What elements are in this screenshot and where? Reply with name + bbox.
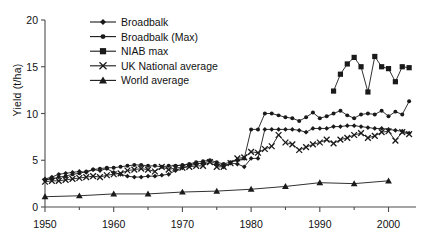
series-world-average — [42, 177, 392, 199]
axes: 05101520195019601970198019902000 — [26, 14, 416, 230]
data-point — [262, 146, 268, 152]
data-point — [304, 115, 308, 119]
y-tick-label: 0 — [32, 201, 38, 213]
data-point — [146, 164, 150, 168]
data-point — [283, 140, 289, 146]
data-point — [132, 175, 137, 180]
data-point — [70, 172, 74, 176]
x-tick-label: 1990 — [308, 218, 332, 230]
data-point — [159, 173, 164, 178]
data-point — [100, 19, 106, 25]
data-point — [345, 123, 350, 128]
data-point — [256, 127, 260, 131]
data-point — [269, 127, 274, 132]
data-point — [331, 141, 337, 147]
data-point — [269, 143, 275, 149]
data-point — [352, 116, 356, 120]
data-point — [249, 127, 253, 131]
data-point — [84, 169, 88, 173]
data-point — [296, 147, 302, 153]
data-point — [235, 162, 240, 167]
data-point — [338, 124, 343, 129]
data-point — [276, 132, 282, 138]
series-broadbalk — [43, 123, 412, 181]
data-point — [311, 126, 316, 131]
data-point — [393, 110, 397, 114]
data-point — [262, 127, 267, 132]
data-point — [372, 133, 378, 139]
data-point — [166, 172, 171, 177]
data-point — [112, 166, 116, 170]
data-point — [324, 126, 329, 131]
data-point — [153, 164, 157, 168]
data-point — [119, 165, 123, 169]
data-point — [365, 89, 370, 94]
data-point — [317, 126, 322, 131]
data-point — [263, 112, 267, 116]
data-point — [310, 141, 316, 147]
data-point — [98, 167, 102, 171]
data-point — [373, 112, 377, 116]
data-point — [303, 144, 309, 150]
x-tick-label: 1980 — [239, 218, 263, 230]
data-point — [365, 135, 371, 141]
data-point — [407, 65, 412, 70]
data-point — [358, 130, 364, 136]
data-point — [290, 116, 294, 120]
data-point — [283, 127, 288, 132]
data-point — [316, 179, 323, 185]
data-point — [194, 160, 198, 164]
data-point — [215, 160, 219, 164]
x-tick-label: 1970 — [171, 218, 195, 230]
data-point — [153, 174, 158, 179]
data-point — [297, 128, 302, 133]
data-point — [311, 111, 315, 115]
series-broadbalk-max — [43, 99, 411, 182]
data-point — [393, 128, 398, 133]
data-point — [64, 174, 68, 178]
legend-label: NIAB max — [121, 45, 169, 57]
data-point — [325, 114, 329, 118]
legend-item: Broadbalk (Max) — [90, 31, 198, 43]
data-point — [372, 54, 377, 59]
data-point — [385, 177, 392, 183]
data-point — [351, 132, 357, 138]
y-tick-label: 5 — [32, 154, 38, 166]
data-point — [407, 99, 411, 103]
data-point — [270, 112, 274, 116]
data-point — [344, 135, 350, 141]
y-tick-label: 10 — [26, 108, 38, 120]
data-point — [297, 119, 301, 123]
data-point — [289, 141, 295, 147]
data-point — [276, 127, 281, 132]
legend-item: Broadbalk — [90, 16, 169, 28]
data-point — [366, 112, 370, 116]
data-point — [338, 109, 342, 113]
data-point — [318, 116, 322, 120]
data-point — [152, 169, 158, 175]
data-point — [283, 115, 287, 119]
data-point — [400, 112, 404, 116]
data-point — [277, 113, 281, 117]
data-point — [332, 112, 336, 116]
data-point — [331, 124, 336, 129]
data-point — [387, 114, 391, 118]
data-point — [345, 113, 349, 117]
data-point — [304, 130, 309, 135]
data-point — [167, 164, 171, 168]
series-niab-max — [331, 54, 412, 95]
data-point — [379, 64, 384, 69]
data-point — [393, 138, 399, 144]
data-point — [201, 159, 205, 163]
chart-canvas: 05101520195019601970198019902000Broadbal… — [0, 0, 426, 252]
data-point — [393, 79, 398, 84]
data-point — [358, 64, 363, 69]
series-uk-national-average — [42, 128, 412, 184]
legend-item: World average — [90, 74, 189, 86]
legend-item: UK National average — [90, 60, 218, 72]
data-point — [91, 168, 95, 172]
data-point — [352, 123, 357, 128]
data-point — [338, 72, 343, 77]
legend-label: Broadbalk — [121, 16, 169, 28]
data-point — [139, 175, 144, 180]
